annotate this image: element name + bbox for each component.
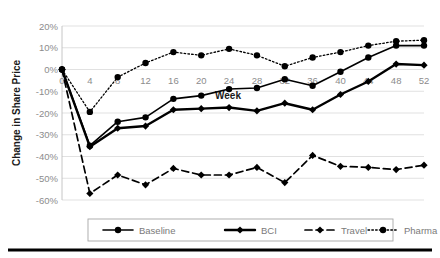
- data-point-marker: [309, 83, 315, 89]
- data-point-marker: [59, 66, 65, 72]
- data-point-marker: [225, 104, 232, 111]
- legend-label: BCI: [261, 225, 277, 236]
- y-tick-label: 10%: [39, 42, 59, 53]
- legend: BaselineBCITravelPharma: [88, 219, 438, 241]
- data-point-marker: [420, 162, 427, 169]
- data-point-marker: [86, 190, 93, 197]
- data-point-marker: [87, 109, 93, 115]
- data-point-marker: [393, 166, 400, 173]
- data-point-marker: [142, 60, 148, 66]
- data-point-marker: [254, 85, 260, 91]
- data-point-marker: [198, 105, 205, 112]
- data-point-marker: [282, 76, 288, 82]
- data-point-marker: [226, 46, 232, 52]
- data-point-marker: [309, 54, 315, 60]
- data-point-marker: [282, 63, 288, 69]
- y-tick-label: -20%: [36, 108, 59, 119]
- data-point-marker: [337, 49, 343, 55]
- y-tick-label: -40%: [36, 151, 59, 162]
- data-point-marker: [198, 52, 204, 58]
- y-tick-label: -60%: [36, 195, 59, 206]
- x-tick-label: 52: [419, 75, 430, 86]
- data-point-marker: [380, 227, 386, 233]
- y-tick-label: -30%: [36, 129, 59, 140]
- data-point-marker: [114, 119, 120, 125]
- x-tick-label: 16: [168, 75, 179, 86]
- series-baseline: [59, 42, 427, 148]
- data-point-marker: [170, 49, 176, 55]
- data-point-marker: [225, 171, 232, 178]
- chart-canvas: 20%10%0%-10%-20%-30%-40%-50%-60% 0481216…: [0, 0, 440, 258]
- data-point-marker: [115, 227, 121, 233]
- x-tick-label: 4: [87, 75, 92, 86]
- x-tick-label: 40: [335, 75, 346, 86]
- data-point-marker: [337, 68, 343, 74]
- data-point-marker: [198, 171, 205, 178]
- legend-label: Pharma: [404, 225, 438, 236]
- data-point-marker: [198, 92, 204, 98]
- legend-label: Baseline: [139, 225, 175, 236]
- series-line: [62, 46, 424, 146]
- y-tick-label: 0%: [44, 64, 58, 75]
- data-point-marker: [253, 164, 260, 171]
- data-point-marker: [420, 62, 427, 69]
- data-point-marker: [170, 165, 177, 172]
- y-tick-label: -50%: [36, 173, 59, 184]
- data-point-marker: [365, 164, 372, 171]
- data-point-marker: [142, 181, 149, 188]
- data-point-marker: [170, 96, 176, 102]
- series-group: [58, 37, 427, 197]
- x-tick-label: 28: [252, 75, 263, 86]
- y-tick-labels-group: 20%10%0%-10%-20%-30%-40%-50%-60%: [36, 21, 59, 206]
- data-point-marker: [393, 38, 399, 44]
- data-point-marker: [114, 74, 120, 80]
- y-tick-label: -10%: [36, 86, 59, 97]
- data-point-marker: [226, 86, 232, 92]
- data-point-marker: [337, 163, 344, 170]
- data-point-marker: [254, 52, 260, 58]
- y-tick-label: 20%: [39, 21, 59, 32]
- data-point-marker: [365, 54, 371, 60]
- y-axis-title: Change in Share Price: [11, 59, 22, 166]
- x-tick-label: 20: [196, 75, 207, 86]
- x-tick-label: 12: [140, 75, 151, 86]
- data-point-marker: [281, 100, 288, 107]
- legend-label: Travel: [341, 225, 367, 236]
- x-tick-label: 24: [224, 75, 235, 86]
- data-point-marker: [421, 37, 427, 43]
- x-tick-label: 48: [391, 75, 402, 86]
- data-point-marker: [142, 114, 148, 120]
- share-price-chart: 20%10%0%-10%-20%-30%-40%-50%-60% 0481216…: [0, 0, 440, 258]
- data-point-marker: [365, 42, 371, 48]
